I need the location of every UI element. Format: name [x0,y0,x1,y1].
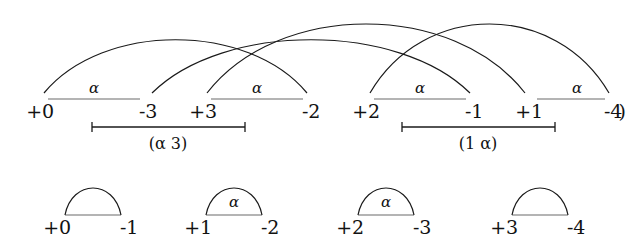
top-alpha-label-1: α [252,79,262,97]
top-trailing-paren: ) [618,100,625,122]
bottom-node-label-left-3: +3 [490,216,517,238]
bracket-label-0: (α 3) [149,134,188,153]
top-alpha-label-0: α [89,79,99,97]
top-node-label-right-0: -3 [139,100,157,122]
bracket-label-1: (1 α) [459,134,498,153]
bottom-node-label-left-1: +1 [184,216,211,238]
bottom-node-label-left-2: +2 [336,216,363,238]
bottom-node-label-right-0: -1 [120,216,138,238]
bottom-node-label-right-2: -3 [413,216,431,238]
figure-canvas: +0-3α+3-2α+2-1α+1-4α)(α 3)(1 α)+0-1+1-2α… [0,0,638,241]
bottom-alpha-label-2: α [381,193,391,211]
bottom-alpha-label-1: α [229,193,239,211]
bottom-node-label-right-3: -4 [567,216,585,238]
top-node-label-left-1: +3 [189,100,216,122]
top-node-label-left-3: +1 [515,100,542,122]
top-node-label-left-0: +0 [26,100,53,122]
bottom-node-label-left-0: +0 [43,216,70,238]
top-alpha-label-2: α [415,79,425,97]
top-node-label-right-1: -2 [302,100,320,122]
top-alpha-label-3: α [572,79,582,97]
top-node-label-right-2: -1 [465,100,483,122]
bottom-node-label-right-1: -2 [261,216,279,238]
label-layer: +0-3α+3-2α+2-1α+1-4α)(α 3)(1 α)+0-1+1-2α… [0,0,638,241]
top-node-label-left-2: +2 [352,100,379,122]
